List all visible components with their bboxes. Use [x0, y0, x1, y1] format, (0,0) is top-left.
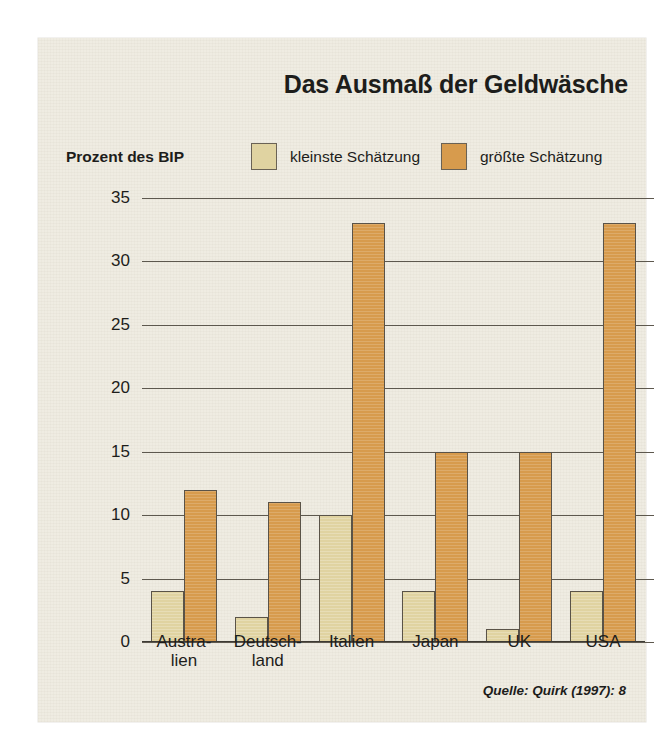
bar [268, 502, 301, 642]
plot-area: 05101520253035 Austra-lienDeutsch-landIt… [100, 198, 645, 674]
source-note: Quelle: Quirk (1997): 8 [483, 683, 626, 698]
y-tick-mark-10 [645, 515, 654, 516]
y-tick-mark-0 [645, 642, 654, 643]
y-tick-mark-15 [645, 452, 654, 453]
bar-group [226, 198, 310, 642]
x-axis-category-label: USA [561, 628, 645, 674]
bar-group [310, 198, 394, 642]
bar [603, 223, 636, 642]
legend-swatch-min-estimate [251, 143, 277, 170]
x-axis-category-label: Japan [393, 628, 477, 674]
y-tick-mark-25 [645, 325, 654, 326]
x-axis-category-label: Austra-lien [142, 628, 226, 674]
bar [519, 452, 552, 642]
y-tick-mark-5 [645, 579, 654, 580]
y-axis-unit-label: Prozent des BIP [66, 148, 184, 166]
legend-swatch-max-estimate [441, 143, 467, 170]
x-axis-category-label: Italien [310, 628, 394, 674]
y-tick-label-10: 10 [111, 505, 130, 525]
bar [435, 452, 468, 642]
y-tick-label-15: 15 [111, 442, 130, 462]
plot-canvas [142, 198, 645, 642]
bars-layer [142, 198, 645, 642]
y-axis-tick-labels: 05101520253035 [100, 198, 130, 674]
legend-label-min-estimate: kleinste Schätzung [290, 148, 420, 166]
y-tick-label-5: 5 [121, 569, 130, 589]
y-tick-label-35: 35 [111, 188, 130, 208]
bar-group [142, 198, 226, 642]
y-tick-mark-35 [645, 198, 654, 199]
y-tick-label-30: 30 [111, 251, 130, 271]
y-tick-label-20: 20 [111, 378, 130, 398]
y-tick-label-0: 0 [121, 632, 130, 652]
legend-item-groesste-schaetzung: größte Schätzung [441, 143, 602, 170]
x-axis-category-labels: Austra-lienDeutsch-landItalienJapanUKUSA [142, 628, 645, 674]
chart-title: Das Ausmaß der Geldwäsche [284, 70, 628, 99]
y-tick-mark-20 [645, 388, 654, 389]
bar [319, 515, 352, 642]
chart-legend: Prozent des BIP kleinste Schätzung größt… [66, 143, 626, 173]
x-axis-category-label: Deutsch-land [226, 628, 310, 674]
bar-group [477, 198, 561, 642]
y-tick-mark-30 [645, 261, 654, 262]
bar [352, 223, 385, 642]
x-axis-category-label: UK [477, 628, 561, 674]
bar-group [393, 198, 477, 642]
figure-panel: Das Ausmaß der Geldwäsche Prozent des BI… [38, 38, 646, 722]
bar [184, 490, 217, 642]
y-tick-label-25: 25 [111, 315, 130, 335]
legend-item-kleinste-schaetzung: kleinste Schätzung [251, 143, 420, 170]
bar-group [561, 198, 645, 642]
legend-label-max-estimate: größte Schätzung [480, 148, 602, 166]
